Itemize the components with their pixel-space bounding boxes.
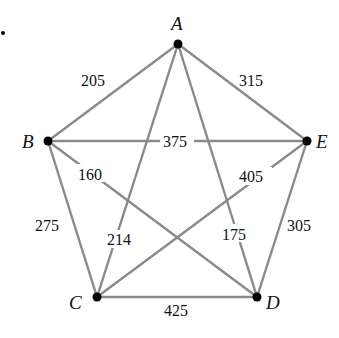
edge-A-E — [178, 44, 307, 141]
weight-B-E: 375 — [163, 133, 187, 150]
vertex-E — [303, 137, 312, 146]
vertex-B — [44, 137, 53, 146]
edge-C-E — [97, 141, 307, 297]
weight-C-E: 405 — [239, 168, 263, 185]
edge-A-C — [97, 44, 178, 297]
edge-A-B — [48, 44, 178, 141]
vertex-label-A: A — [169, 13, 183, 34]
weight-C-D: 425 — [164, 302, 188, 319]
vertex-label-C: C — [69, 292, 82, 313]
weight-A-D: 175 — [222, 226, 246, 243]
vertex-label-B: B — [22, 131, 34, 152]
weight-B-D: 160 — [78, 166, 102, 183]
bullet-marker — [1, 31, 5, 35]
weighted-graph: 205 315 375 160 275 214 175 405 305 425 … — [0, 0, 339, 338]
vertex-C — [93, 293, 102, 302]
vertex-label-E: E — [315, 131, 328, 152]
vertex-D — [253, 293, 262, 302]
vertex-label-D: D — [265, 292, 280, 313]
weight-A-C: 214 — [107, 231, 131, 248]
weight-E-D: 305 — [287, 217, 311, 234]
weight-A-B: 205 — [81, 72, 105, 89]
weight-B-C: 275 — [35, 217, 59, 234]
weight-A-E: 315 — [239, 72, 263, 89]
vertex-A — [174, 40, 183, 49]
